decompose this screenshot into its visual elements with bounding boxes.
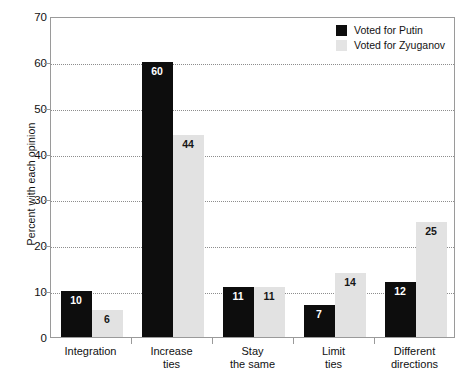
x-tick-mark [374, 338, 375, 344]
bar-value-label: 10 [61, 294, 92, 306]
x-category-label: Differentdirections [374, 345, 455, 371]
y-tick-label: 10 [0, 286, 47, 298]
bar: 25 [416, 222, 447, 337]
legend-item-putin: Voted for Putin [336, 24, 445, 36]
x-category-label: Limitties [293, 345, 374, 371]
x-tick-mark [131, 338, 132, 344]
x-category-label-line: Limit [293, 345, 374, 358]
y-tick-label: 60 [0, 57, 47, 69]
bar-value-label: 11 [223, 290, 254, 302]
legend-item-zyuganov: Voted for Zyuganov [336, 39, 445, 51]
x-category-label-line: directions [374, 358, 455, 371]
x-category-label-line: Different [374, 345, 455, 358]
x-category-label-line: the same [212, 358, 293, 371]
bar-value-label: 60 [142, 65, 173, 77]
x-category-label: Increaseties [131, 345, 212, 371]
x-category-label-line: ties [131, 358, 212, 371]
legend-label-zyuganov: Voted for Zyuganov [354, 39, 445, 51]
bar: 11 [254, 287, 285, 337]
gridline [51, 110, 454, 111]
y-tick-label: 70 [0, 11, 47, 23]
legend-label-putin: Voted for Putin [354, 24, 423, 36]
bar-value-label: 12 [385, 285, 416, 297]
y-tick-label: 0 [0, 332, 47, 344]
x-category-label-line: ties [293, 358, 374, 371]
legend-swatch-icon-putin [336, 25, 347, 36]
bar: 44 [173, 135, 204, 337]
bar-value-label: 25 [416, 225, 447, 237]
bar: 14 [335, 273, 366, 337]
gridline [51, 64, 454, 65]
bar-value-label: 44 [173, 138, 204, 150]
bar: 11 [223, 287, 254, 337]
bar-value-label: 6 [92, 313, 123, 325]
bar: 6 [92, 310, 123, 338]
bar: 7 [304, 305, 335, 337]
bar: 60 [142, 62, 173, 337]
bar-value-label: 7 [304, 308, 335, 320]
gridline [51, 201, 454, 202]
chart-legend: Voted for Putin Voted for Zyuganov [336, 24, 445, 51]
x-category-label: Integration [50, 345, 131, 358]
x-category-label-line: Integration [50, 345, 131, 358]
bar-value-label: 14 [335, 276, 366, 288]
y-tick-label: 30 [0, 194, 47, 206]
x-tick-mark [212, 338, 213, 344]
x-category-label: Staythe same [212, 345, 293, 371]
y-tick-label: 40 [0, 149, 47, 161]
x-category-label-line: Increase [131, 345, 212, 358]
legend-swatch-icon-zyuganov [336, 40, 347, 51]
x-tick-mark [293, 338, 294, 344]
plot-area: 106604411117141225 [50, 17, 455, 338]
bar-chart: Percent with each opinion 01020304050607… [0, 0, 470, 378]
bar: 12 [385, 282, 416, 337]
gridline [51, 156, 454, 157]
gridline [51, 247, 454, 248]
y-tick-label: 20 [0, 240, 47, 252]
y-tick-label: 50 [0, 103, 47, 115]
bar: 10 [61, 291, 92, 337]
x-category-label-line: Stay [212, 345, 293, 358]
plot-inner: 106604411117141225 [51, 18, 454, 337]
bar-value-label: 11 [254, 290, 285, 302]
